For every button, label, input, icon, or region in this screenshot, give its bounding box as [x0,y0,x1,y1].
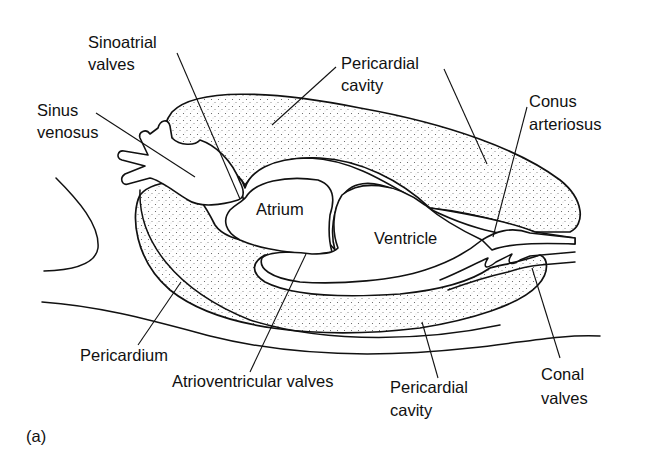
body-wall-left [44,178,98,271]
leader-pericardial-cavity-bottom [422,322,438,378]
label-sinus-venosus: Sinusvenosus [37,101,98,141]
label-atrioventricular-valves: Atrioventricular valves [172,372,333,390]
panel-label: (a) [26,427,46,445]
label-ventricle: Ventricle [374,229,437,247]
label-pericardium: Pericardium [80,346,168,364]
label-sinoatrial-valves: Sinoatrialvalves [88,33,157,73]
conus-outflow [482,230,575,250]
leader-conal-valves [532,268,560,358]
label-conal-valves: Conalvalves [541,365,588,407]
leader-pericardium [138,282,181,345]
label-conus-arteriosus: Conusarteriosus [529,92,601,133]
label-pericardial-cavity-bottom: Pericardialcavity [390,378,468,419]
label-pericardial-cavity-top: Pericardialcavity [341,54,419,94]
label-atrium: Atrium [256,200,304,218]
heart-diagram: Sinoatrialvalves Pericardialcavity Sinus… [0,0,648,451]
